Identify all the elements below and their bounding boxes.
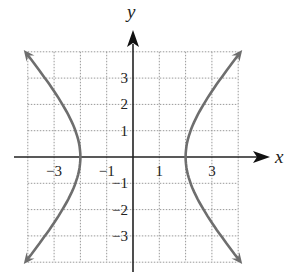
x-tick-label: 3 [208, 163, 216, 179]
y-tick-label: −2 [112, 202, 128, 218]
y-tick-label: 1 [121, 123, 129, 139]
y-tick-label: 2 [121, 96, 129, 112]
y-tick-label: −1 [112, 175, 128, 191]
y-tick-label: −3 [112, 228, 128, 244]
x-tick-label: 1 [156, 163, 164, 179]
y-axis-label: y [125, 1, 136, 22]
y-tick-label: 3 [121, 70, 129, 86]
x-axis-label: x [274, 146, 284, 167]
hyperbola-graph: x y −3−113321−1−2−3 [0, 0, 291, 280]
x-tick-label: −3 [46, 163, 62, 179]
